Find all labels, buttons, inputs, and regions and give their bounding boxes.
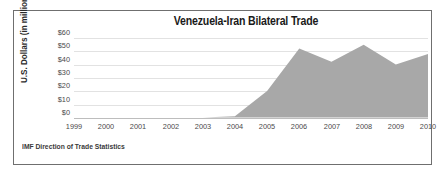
x-tick-label: 2008 (355, 122, 371, 132)
source-note: IMF Direction of Trade Statistics (22, 142, 125, 151)
y-tick-label: $40 (41, 56, 70, 64)
plot-area (74, 38, 428, 118)
y-axis-label: U.S. Dollars (in millions) (19, 11, 29, 83)
area-series-shape (74, 38, 428, 118)
chart-figure: Venezuela-Iran Bilateral Trade U.S. Doll… (0, 0, 444, 174)
y-tick-label: $30 (41, 69, 70, 77)
y-axis-tick-labels: $60 $50 $40 $30 $20 $10 $0 (38, 33, 70, 123)
x-tick-label: 2000 (98, 122, 114, 132)
y-tick-label: $20 (41, 82, 70, 90)
y-tick-label: $60 (41, 29, 70, 37)
x-tick-label: 2003 (195, 122, 211, 132)
x-tick-label: 2009 (388, 122, 404, 132)
x-tick-label: 1999 (66, 122, 82, 132)
x-tick-label: 2002 (162, 122, 178, 132)
y-tick-label: $0 (41, 109, 70, 117)
x-tick-label: 2006 (291, 122, 307, 132)
x-tick-label: 2005 (259, 122, 275, 132)
x-axis-tick-labels: 1999 2000 2001 2002 2003 2004 2005 2006 … (74, 122, 428, 134)
x-tick-label: 2010 (420, 122, 436, 132)
x-tick-label: 2007 (323, 122, 339, 132)
y-tick-label: $10 (41, 96, 70, 104)
x-tick-label: 2001 (130, 122, 146, 132)
y-tick-label: $50 (41, 42, 70, 50)
chart-title: Venezuela-Iran Bilateral Trade (82, 14, 409, 28)
x-tick-label: 2004 (227, 122, 243, 132)
